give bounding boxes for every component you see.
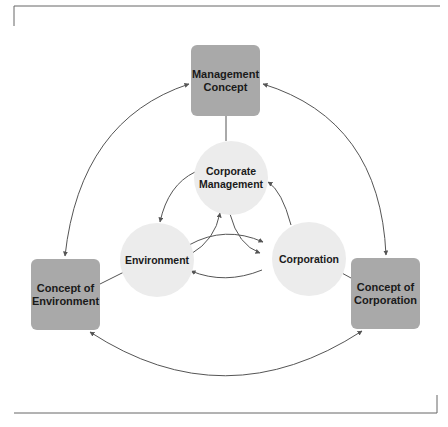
node-environment: Environment	[120, 223, 194, 297]
arrow-corporation-to-corporate	[268, 182, 291, 225]
arrow-environment-to-corporate	[191, 213, 220, 254]
node-concept-of-environment: Concept of Environment	[31, 259, 100, 330]
arrow-environment-to-corporation	[189, 234, 263, 245]
node-label: Concept of Environment	[32, 282, 99, 308]
arrow-corporation-to-environment	[191, 270, 262, 278]
node-label: Management Concept	[192, 68, 259, 94]
node-label: Corporate Management	[199, 165, 263, 191]
arc-environment-corporation	[90, 331, 362, 376]
node-label: Environment	[125, 254, 189, 267]
node-corporate-management: Corporate Management	[194, 141, 268, 215]
node-concept-of-corporation: Concept of Corporation	[351, 258, 420, 329]
node-corporation: Corporation	[272, 222, 346, 296]
arrow-corporate-to-corporation	[230, 214, 260, 253]
arrow-corporate-to-environment	[160, 172, 195, 222]
node-label: Concept of Corporation	[354, 281, 417, 307]
node-label: Corporation	[279, 253, 339, 266]
node-management-concept: Management Concept	[191, 45, 260, 116]
